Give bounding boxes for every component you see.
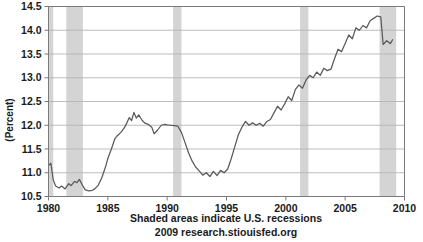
- chart-canvas: 10.511.011.512.012.513.013.514.014.5 198…: [0, 0, 423, 242]
- y-tick-label-7: 14.0: [21, 24, 42, 36]
- y-tick-label-2: 11.5: [22, 143, 42, 155]
- x-tick-label-6: 2010: [393, 202, 417, 214]
- y-tick-label-3: 12.0: [21, 119, 42, 131]
- y-tick-label-4: 12.5: [21, 95, 42, 107]
- chart-caption-recessions: Shaded areas indicate U.S. recessions: [130, 212, 322, 224]
- chart-caption-source: 2009 research.stiouisfed.org: [155, 226, 297, 238]
- x-tick-label-1: 1985: [96, 202, 120, 214]
- x-tick-label-5: 2005: [333, 202, 357, 214]
- x-tick-label-0: 1980: [37, 202, 61, 214]
- y-tick-label-8: 14.5: [21, 0, 42, 12]
- y-tick-label-1: 11.0: [22, 166, 42, 178]
- y-tick-label-0: 10.5: [21, 190, 42, 202]
- economic-time-series-chart: 10.511.011.512.012.513.013.514.014.5 198…: [0, 0, 423, 242]
- chart-background: [0, 0, 423, 242]
- y-tick-label-6: 13.5: [21, 48, 42, 60]
- y-tick-label-5: 13.0: [21, 71, 42, 83]
- y-axis-title: (Percent): [4, 98, 15, 141]
